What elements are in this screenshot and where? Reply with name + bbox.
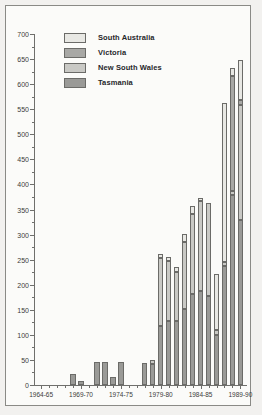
bar-segment-tasmania: [206, 296, 211, 385]
bar-segment-south-australia: [182, 234, 187, 242]
x-tick-major: [201, 385, 202, 389]
y-tick-minor: [32, 172, 34, 173]
bar-segment-new-south-wales: [190, 214, 195, 294]
bar-1987-88: [222, 103, 227, 385]
x-tick-major: [121, 385, 122, 389]
legend-swatch: [64, 33, 86, 43]
x-axis-label: 1974-75: [109, 392, 133, 399]
bar-segment-tasmania: [110, 377, 115, 385]
bar-segment-tasmania: [150, 364, 155, 385]
legend-label: South Australia: [98, 33, 155, 42]
bar-segment-tasmania: [198, 291, 203, 385]
y-tick-minor: [32, 197, 34, 198]
x-axis-label: 1964-65: [29, 392, 53, 399]
bar-segment-new-south-wales: [150, 360, 155, 364]
x-tick-minor: [113, 385, 114, 388]
bar-segment-tasmania: [142, 363, 147, 385]
x-tick-major: [81, 385, 82, 389]
x-tick-minor: [145, 385, 146, 388]
y-tick-minor: [32, 297, 34, 298]
y-axis-label: 250: [17, 256, 29, 263]
y-tick-minor: [32, 122, 34, 123]
bar-1968-69: [70, 374, 75, 385]
y-tick-major: [30, 109, 34, 110]
y-tick-minor: [32, 272, 34, 273]
bar-segment-tasmania: [182, 309, 187, 385]
x-tick-minor: [137, 385, 138, 388]
legend-swatch: [64, 63, 86, 73]
bar-segment-new-south-wales: [222, 262, 227, 266]
legend-item: Tasmania: [64, 75, 162, 90]
y-tick-major: [30, 235, 34, 236]
y-tick-major: [30, 184, 34, 185]
bar-1978-79: [150, 360, 155, 385]
y-axis-label: 0: [25, 382, 29, 389]
bar-segment-south-australia: [230, 68, 235, 76]
y-axis-line: [34, 34, 35, 386]
legend-swatch: [64, 48, 86, 58]
y-tick-minor: [32, 222, 34, 223]
bar-segment-new-south-wales: [182, 242, 187, 309]
bar-segment-south-australia: [214, 274, 219, 330]
y-tick-major: [30, 385, 34, 386]
y-tick-major: [30, 34, 34, 35]
x-tick-minor: [89, 385, 90, 388]
bar-1982-83: [182, 234, 187, 385]
bar-segment-new-south-wales: [158, 258, 163, 326]
y-tick-minor: [32, 97, 34, 98]
x-tick-major: [41, 385, 42, 389]
y-tick-major: [30, 134, 34, 135]
y-axis-label: 200: [17, 281, 29, 288]
x-tick-minor: [65, 385, 66, 388]
legend-item: New South Wales: [64, 60, 162, 75]
x-tick-minor: [57, 385, 58, 388]
y-tick-major: [30, 310, 34, 311]
chart-page: 0501001502002503003504004505005506006507…: [0, 0, 262, 415]
y-axis-label: 100: [17, 331, 29, 338]
x-tick-minor: [129, 385, 130, 388]
bar-segment-tasmania: [70, 374, 75, 385]
y-axis-label: 700: [17, 31, 29, 38]
y-tick-major: [30, 59, 34, 60]
bar-1969-70: [78, 381, 83, 385]
bar-segment-tasmania: [78, 381, 83, 385]
x-tick-minor: [105, 385, 106, 388]
bar-1988-89: [230, 68, 235, 385]
bar-segment-south-australia: [198, 198, 203, 201]
x-tick-major: [240, 385, 241, 389]
x-tick-minor: [153, 385, 154, 388]
bar-segment-tasmania: [230, 195, 235, 385]
bar-1979-80: [158, 254, 163, 385]
y-tick-minor: [32, 147, 34, 148]
bar-1977-78: [142, 363, 147, 385]
bar-1974-75: [118, 362, 123, 385]
y-axis-label: 650: [17, 56, 29, 63]
x-tick-minor: [193, 385, 194, 388]
x-axis-label: 1969-70: [69, 392, 93, 399]
bar-1985-86: [206, 203, 211, 385]
x-axis-label: 1984-85: [189, 392, 213, 399]
bar-segment-new-south-wales: [198, 201, 203, 290]
legend-swatch: [64, 78, 86, 88]
bar-1984-85: [198, 198, 203, 385]
bar-segment-tasmania: [238, 220, 243, 385]
y-axis-label: 350: [17, 206, 29, 213]
legend-item: Victoria: [64, 45, 162, 60]
y-tick-major: [30, 285, 34, 286]
legend-label: Victoria: [98, 48, 126, 57]
bar-segment-new-south-wales: [206, 203, 211, 296]
bar-segment-tasmania: [158, 326, 163, 385]
x-tick-minor: [224, 385, 225, 388]
x-tick-minor: [177, 385, 178, 388]
y-tick-major: [30, 84, 34, 85]
x-tick-minor: [217, 385, 218, 388]
bar-segment-new-south-wales: [166, 261, 171, 321]
bar-1973-74: [110, 377, 115, 385]
bar-segment-south-australia: [190, 206, 195, 215]
y-tick-minor: [32, 372, 34, 373]
y-tick-major: [30, 159, 34, 160]
legend-item: South Australia: [64, 30, 162, 45]
y-axis-label: 150: [17, 306, 29, 313]
legend-label: Tasmania: [98, 78, 133, 87]
bar-1971-72: [94, 362, 99, 385]
